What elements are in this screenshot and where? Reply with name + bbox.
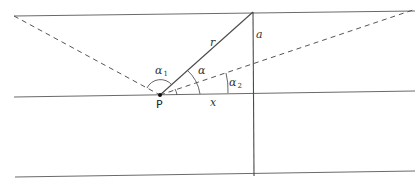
label-alpha2: α2 (229, 76, 242, 90)
angle-arc-alpha1 (147, 80, 172, 88)
label-point-p: P (156, 98, 163, 111)
vertical-line (253, 12, 254, 176)
label-alpha1: α1 (155, 64, 168, 78)
point-p-marker (158, 93, 162, 97)
bottom-boundary-line (15, 171, 415, 177)
angle-arc-alpha2 (226, 73, 228, 93)
label-x: x (210, 96, 217, 109)
label-alpha: α (198, 64, 206, 77)
top-boundary-line (14, 11, 415, 16)
label-a: a (256, 28, 263, 41)
dashed-ray-right (160, 10, 413, 95)
geometry-diagram: P r a x α α1 α2 (0, 0, 415, 184)
label-r: r (210, 36, 216, 49)
dashed-ray-left (14, 16, 160, 95)
